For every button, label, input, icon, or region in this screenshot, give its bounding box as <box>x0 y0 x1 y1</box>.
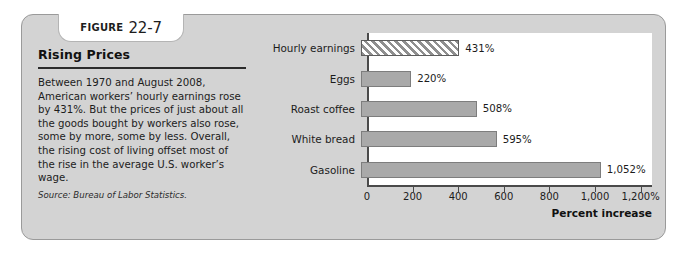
bar-value-label: 220% <box>417 73 446 84</box>
bar-hourly-earnings <box>361 40 459 56</box>
figure-number-tab: FIGURE 22-7 <box>58 14 184 42</box>
bar-value-label: 508% <box>483 103 512 114</box>
bar-white-bread <box>361 131 497 147</box>
panel-title: Rising Prices <box>38 47 246 62</box>
x-axis-tick-labels: 02004006008001,0001,200% <box>254 191 652 205</box>
bar-track: 220% <box>361 63 652 93</box>
bar-value-label: 595% <box>503 134 532 145</box>
category-label: Eggs <box>254 73 361 85</box>
chart-row: Eggs 220% <box>254 63 652 93</box>
bar-track: 1,052% <box>361 155 652 185</box>
x-axis-tick-label: 200 <box>403 191 422 202</box>
panel-source-note: Source: Bureau of Labor Statistics. <box>38 190 246 200</box>
panel-body-text: Between 1970 and August 2008, American w… <box>38 76 246 185</box>
chart-row: White bread 595% <box>254 124 652 154</box>
bar-chart: Hourly earnings 431% Eggs 220% Roast cof… <box>254 33 652 228</box>
bar-roast-coffee <box>361 101 477 117</box>
title-divider <box>38 67 246 69</box>
bar-track: 508% <box>361 94 652 124</box>
category-label: Roast coffee <box>254 103 361 115</box>
x-axis-tick-label: 1,200% <box>622 191 660 202</box>
x-axis-tick-label: 600 <box>494 191 513 202</box>
bar-eggs <box>361 71 411 87</box>
bar-track: 595% <box>361 124 652 154</box>
bar-track: 431% <box>361 33 652 63</box>
bar-gasoline <box>361 162 601 178</box>
bar-value-label: 1,052% <box>607 164 646 175</box>
x-axis-tick-label: 1,000 <box>581 191 610 202</box>
figure-text-column: Rising Prices Between 1970 and August 20… <box>38 47 246 200</box>
chart-row: Roast coffee 508% <box>254 94 652 124</box>
x-axis-title: Percent increase <box>552 207 652 219</box>
category-label: Hourly earnings <box>254 42 361 54</box>
x-axis-tick-label: 800 <box>540 191 559 202</box>
figure-card: FIGURE 22-7 Rising Prices Between 1970 a… <box>21 14 666 240</box>
chart-row: Gasoline 1,052% <box>254 155 652 185</box>
x-axis-tick-label: 400 <box>449 191 468 202</box>
category-label: Gasoline <box>254 164 361 176</box>
figure-label: FIGURE <box>80 22 123 33</box>
figure-number: 22-7 <box>128 19 161 37</box>
chart-row: Hourly earnings 431% <box>254 33 652 63</box>
category-label: White bread <box>254 133 361 145</box>
bar-value-label: 431% <box>465 43 494 54</box>
x-axis-tick-label: 0 <box>364 191 370 202</box>
